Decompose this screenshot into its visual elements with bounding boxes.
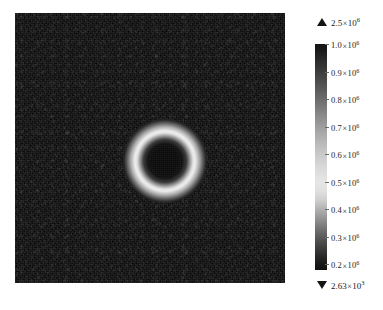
colorbar-under-value: 2.63×103 [331,279,365,291]
colorbar-tick-label: 0.3×106 [331,232,359,243]
heatmap-image [15,13,285,283]
colorbar-tick [325,237,329,238]
triangle-down-icon [317,281,327,289]
colorbar-tick-label: 0.7×106 [331,122,359,133]
colorbar-tick-label: 0.6×106 [331,150,359,161]
colorbar-tick [325,154,329,155]
colorbar-tick [325,72,329,73]
colorbar-tick-label: 0.4×106 [331,205,359,216]
colorbar-tick-label: 0.9×106 [331,67,359,78]
annulus-core-noise-texture [148,144,182,178]
colorbar-tick [325,264,329,265]
colorbar-tick [325,182,329,183]
colorbar-tick-label: 0.5×106 [331,177,359,188]
colorbar-over-caption: 2.5×106 [317,16,360,28]
colorbar-tick [325,127,329,128]
colorbar-tick [325,44,329,45]
colorbar-under-caption: 2.63×103 [317,279,365,291]
colorbar-tick-label: 0.2×106 [331,260,359,271]
colorbar: 2.5×106 1.0×106 0.9×106 0.8×106 0.7×106 … [314,0,383,310]
colorbar-tick [325,209,329,210]
colorbar-tick-label: 0.8×106 [331,95,359,106]
colorbar-tick [325,99,329,100]
figure-root: 2.5×106 1.0×106 0.9×106 0.8×106 0.7×106 … [0,0,383,310]
triangle-up-icon [317,18,327,26]
colorbar-over-value: 2.5×106 [331,16,360,28]
colorbar-tick-label: 1.0×106 [331,40,359,51]
